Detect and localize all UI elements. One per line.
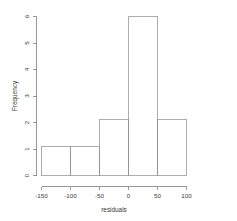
y-tick-label: 5 — [23, 41, 30, 45]
histogram-bar — [100, 120, 129, 176]
x-axis-ticks — [42, 187, 187, 191]
histogram-bar — [129, 17, 158, 176]
y-axis-ticks — [33, 17, 37, 176]
histogram-figure: 0 1 2 3 4 5 6 Frequency -150 -100 -50 0 — [0, 0, 237, 221]
histogram-bar — [42, 147, 71, 176]
y-axis-tick-labels: 0 1 2 3 4 5 6 — [23, 14, 30, 177]
y-tick-label: 4 — [23, 67, 30, 71]
histogram-bars — [42, 17, 187, 176]
x-axis-tick-labels: -150 -100 -50 0 50 100 — [35, 192, 192, 199]
x-tick-label: 0 — [127, 192, 131, 199]
y-tick-label: 3 — [23, 94, 30, 98]
x-tick-label: 100 — [181, 192, 192, 199]
histogram-bar — [71, 147, 100, 176]
y-tick-label: 6 — [23, 14, 30, 18]
x-tick-label: -100 — [64, 192, 77, 199]
histogram-bar — [158, 120, 187, 176]
x-tick-label: 50 — [154, 192, 161, 199]
x-tick-label: -150 — [35, 192, 48, 199]
y-tick-label: 2 — [23, 120, 30, 124]
y-tick-label: 0 — [23, 173, 30, 177]
histogram-plot-area: 0 1 2 3 4 5 6 Frequency -150 -100 -50 0 — [0, 0, 237, 221]
x-tick-label: -50 — [95, 192, 105, 199]
y-axis-title: Frequency — [11, 80, 19, 111]
y-tick-label: 1 — [23, 147, 30, 151]
x-axis-title: residuals — [101, 206, 127, 213]
